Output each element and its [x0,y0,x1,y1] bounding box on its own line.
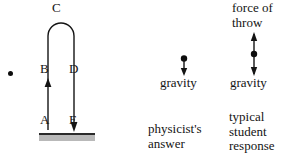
bullet-point-marker [8,71,13,76]
point-label-e: E [69,113,77,128]
point-label-d: D [69,62,78,77]
student-response-caption: typical student response [229,110,275,154]
point-label-b: B [40,62,49,77]
physicist-caption-line-2: answer [148,137,202,152]
physicist-caption-line-1: physicist's [148,122,202,137]
ground-surface [39,133,95,141]
student-caption-line-3: response [229,139,275,154]
point-label-c: C [52,1,61,16]
student-gravity-label: gravity [230,76,267,91]
student-caption-line-1: typical [229,110,275,125]
ball-dot-icon [251,51,257,57]
force-of-throw-line-2: throw [232,16,273,31]
force-of-throw-label: force of throw [232,1,273,30]
apex-turnaround-arc [48,23,74,36]
force-of-throw-line-1: force of [232,1,273,16]
student-force-vector-diagram [246,31,262,77]
student-caption-line-2: student [229,125,275,140]
rising-arrowhead-up-icon [45,78,52,87]
physicist-answer-caption: physicist's answer [148,122,202,151]
physics-force-diagram: C B D A E gravity physicist's answer for… [0,0,285,161]
force-of-throw-arrowhead-up-icon [251,32,257,41]
physicist-gravity-label: gravity [160,76,197,91]
point-label-a: A [40,113,49,128]
